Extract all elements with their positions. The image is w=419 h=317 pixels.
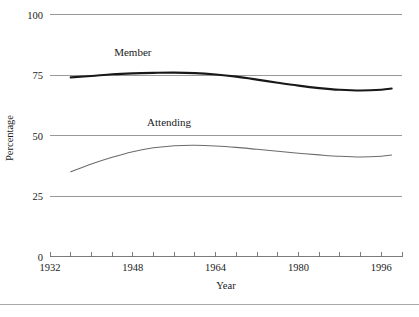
x-axis-title: Year <box>216 280 236 291</box>
y-axis-title: Percentage <box>4 115 15 161</box>
y-gridlines <box>50 15 402 197</box>
y-tick-label-75: 75 <box>33 70 44 81</box>
y-tick-label-100: 100 <box>27 10 43 21</box>
line-chart-canvas: 100 75 50 25 0 1932 1948 1964 1980 1996 … <box>0 0 419 317</box>
x-axis-tick-labels: 1932 1948 1964 1980 1996 <box>40 262 392 273</box>
x-tick-label-1964: 1964 <box>205 262 227 273</box>
y-tick-label-50: 50 <box>33 131 44 142</box>
x-tick-label-1932: 1932 <box>40 262 61 273</box>
x-tick-label-1996: 1996 <box>371 262 392 273</box>
y-axis-tick-labels: 100 75 50 25 0 <box>27 10 43 263</box>
series-line-attending <box>71 145 392 172</box>
series-label-member: Member <box>114 46 152 58</box>
y-tick-label-25: 25 <box>33 191 44 202</box>
footer-divider <box>0 304 419 305</box>
x-tick-label-1980: 1980 <box>288 262 309 273</box>
chart-figure: 100 75 50 25 0 1932 1948 1964 1980 1996 … <box>0 0 419 317</box>
x-tick-label-1948: 1948 <box>122 262 143 273</box>
series-label-attending: Attending <box>147 116 191 128</box>
x-axis-tickmarks <box>50 252 402 257</box>
y-tick-label-0: 0 <box>38 252 43 263</box>
